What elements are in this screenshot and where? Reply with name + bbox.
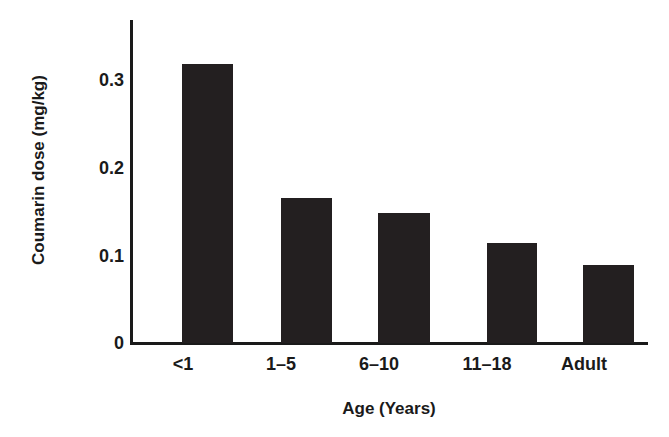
bar-adult [583, 265, 634, 343]
x-tick-label-lt1: <1 [133, 355, 233, 373]
y-tick-label-0-2: 0.2 [72, 159, 124, 177]
bar-lt1 [182, 64, 233, 343]
x-tick-label-adult: Adult [534, 355, 634, 373]
bar-chart-figure: Coumarin dose (mg/kg) 0.3 0.2 0.1 0 <1 1… [0, 0, 669, 437]
bar-11-18 [487, 243, 537, 343]
bar-6-10 [378, 213, 430, 343]
bar-1-5 [281, 198, 332, 343]
y-axis-tick-labels: 0.3 0.2 0.1 0 [72, 0, 124, 437]
plot-area [133, 20, 648, 343]
x-tick-label-11-18: 11–18 [437, 355, 537, 373]
x-tick-label-1-5: 1–5 [231, 355, 331, 373]
y-axis-title: Coumarin dose (mg/kg) [24, 0, 54, 340]
y-tick-label-0-1: 0.1 [72, 247, 124, 265]
x-axis-title: Age (Years) [130, 399, 648, 419]
y-tick-label-0-3: 0.3 [72, 71, 124, 89]
x-tick-label-6-10: 6–10 [329, 355, 429, 373]
y-tick-label-0: 0 [72, 334, 124, 352]
